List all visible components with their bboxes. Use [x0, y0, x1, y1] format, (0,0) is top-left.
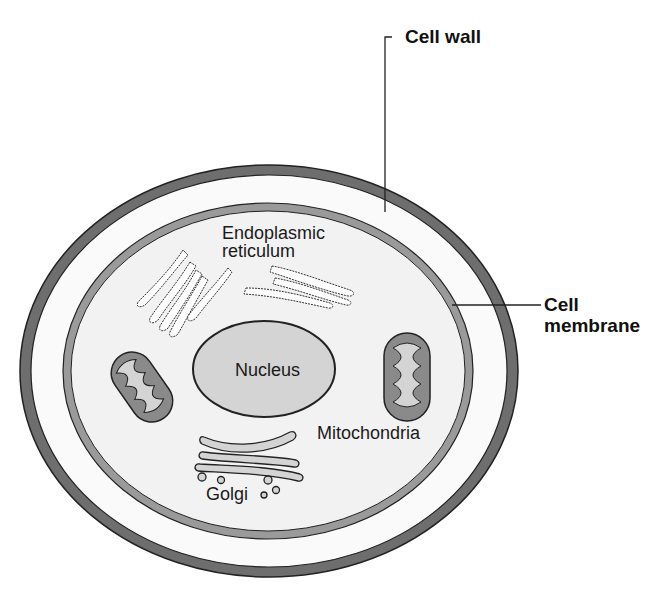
label-er-2: reticulum	[222, 241, 295, 261]
mitochondria-right	[384, 333, 430, 421]
label-cell-membrane-2: membrane	[544, 315, 640, 337]
label-nucleus: Nucleus	[235, 360, 300, 380]
label-er-1: Endoplasmic	[222, 223, 325, 243]
label-cell-membrane-1: Cell	[544, 294, 579, 316]
label-golgi: Golgi	[206, 484, 248, 504]
cell-wall-leader	[385, 37, 392, 212]
label-mitochondria: Mitochondria	[317, 423, 420, 443]
label-cell-wall: Cell wall	[405, 26, 481, 48]
